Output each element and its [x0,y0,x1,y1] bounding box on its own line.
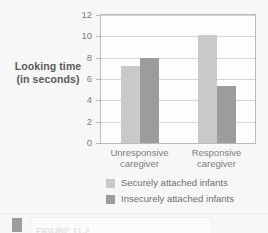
figure-caption-label: FIGURE 11.2 [36,226,90,233]
y-tick-label-6: 6 [74,74,92,84]
y-tick-label-12: 12 [74,10,92,20]
x-axis-label-line2: caregiver [171,158,263,169]
bar [121,66,140,143]
legend-label-insecure: Insecurely attached infants [121,194,234,204]
x-axis-label-line1: Responsive [171,147,263,158]
legend-item-secure: Securely attached infants [106,176,234,190]
chart-legend: Securely attached infants Insecurely att… [106,176,234,208]
y-tick-label-8: 8 [74,53,92,63]
y-tick-label-4: 4 [74,95,92,105]
bar [217,86,236,143]
caption-divider [0,213,268,214]
legend-swatch-secure-icon [106,179,115,188]
y-tick-label-0: 0 [74,138,92,148]
legend-item-insecure: Insecurely attached infants [106,192,234,206]
y-tick-label-2: 2 [74,117,92,127]
gridline [101,143,255,144]
bar-group [101,15,178,143]
y-tick-label-10: 10 [74,31,92,41]
caption-marker-icon [12,218,22,232]
figure-root: Looking time (in seconds) 024681012 Unre… [0,0,268,233]
bar-group [178,15,255,143]
bar [198,35,217,143]
x-axis-label: Responsivecaregiver [171,147,263,169]
bars-layer [101,15,255,143]
legend-swatch-insecure-icon [106,195,115,204]
legend-label-secure: Securely attached infants [121,178,228,188]
bar [140,58,159,143]
